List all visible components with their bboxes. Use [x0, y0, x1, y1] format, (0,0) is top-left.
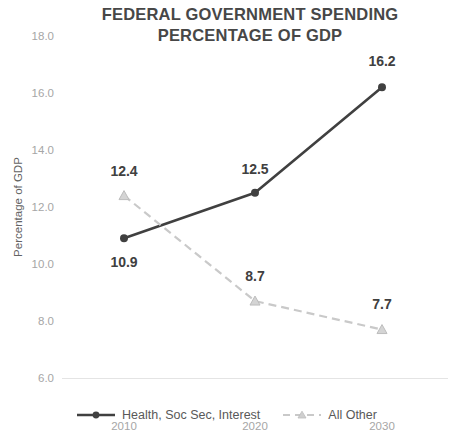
data-label-8.7: 8.7 [245, 268, 264, 284]
chart-container: FEDERAL GOVERNMENT SPENDING PERCENTAGE O… [0, 0, 453, 435]
legend-item-primary[interactable]: Health, Soc Sec, Interest [76, 408, 260, 422]
data-label-12.4: 12.4 [110, 163, 137, 179]
data-label-16.2: 16.2 [368, 53, 395, 69]
chart-legend: Health, Soc Sec, Interest All Other [0, 408, 453, 422]
data-point-marker [378, 83, 386, 91]
data-point-marker [251, 189, 259, 197]
data-label-12.5: 12.5 [241, 161, 268, 177]
series-line-secondary [124, 196, 382, 330]
legend-label-primary: Health, Soc Sec, Interest [122, 408, 260, 422]
legend-label-secondary: All Other [328, 408, 377, 422]
legend-line-circle-icon [76, 408, 116, 422]
legend-item-secondary[interactable]: All Other [282, 408, 377, 422]
data-label-10.9: 10.9 [110, 254, 137, 270]
data-point-marker [119, 191, 129, 200]
data-label-7.7: 7.7 [372, 296, 391, 312]
data-point-marker [120, 234, 128, 242]
data-point-marker [377, 325, 387, 334]
legend-dashed-triangle-icon [282, 408, 322, 422]
